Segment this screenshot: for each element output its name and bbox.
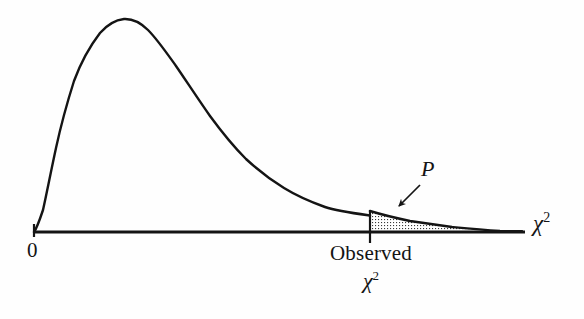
chi-square-distribution-figure: 0 χ2 P Observed χ2 [0,0,584,319]
observed-variable-label: χ2 [300,270,442,292]
observed-value-label: Observed χ2 [300,243,442,292]
observed-word-label: Observed [300,243,442,264]
x-axis-label-variable: χ [533,211,543,236]
density-curve [34,19,370,232]
observed-variable-glyph: χ [363,268,373,293]
observed-variable-exponent: 2 [373,268,380,283]
p-annotation-arrow [399,185,420,206]
x-axis-label-exponent: 2 [543,210,550,225]
origin-label: 0 [27,240,38,261]
chi-square-plot-svg [0,0,584,319]
x-axis-label: χ2 [533,212,550,235]
p-annotation-label: P [421,158,434,180]
